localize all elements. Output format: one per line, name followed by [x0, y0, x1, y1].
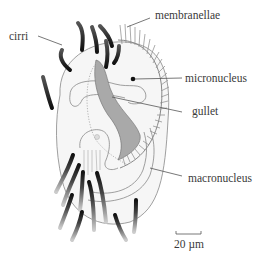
scale-bar: 20 µm	[174, 231, 204, 251]
label-micronucleus: micronucleus	[185, 72, 247, 84]
label-macronucleus: macronucleus	[188, 172, 252, 184]
micronucleus	[131, 77, 136, 82]
label-gullet: gullet	[192, 105, 219, 118]
label-membranellae: membranellae	[155, 9, 220, 21]
ciliate-diagram: cirri membranellae micronucleus gullet m…	[0, 0, 265, 263]
label-cirri: cirri	[9, 30, 28, 42]
scale-bar-label: 20 µm	[174, 238, 204, 251]
